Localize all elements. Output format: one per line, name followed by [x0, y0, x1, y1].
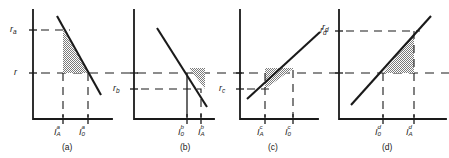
panel-b-xlabel-I0-stack: b 0	[181, 126, 186, 135]
panel-c-axes	[240, 10, 318, 119]
panel-b-shaded-triangle	[189, 68, 205, 89]
panel-d-xlabel-IA: I d A	[406, 126, 414, 137]
panel-c-xlabel-IA-sup: c	[260, 124, 263, 130]
panel-c-xlabel-I0-stack: c 0	[288, 126, 293, 135]
panel-c-xlabel-IA: I c A	[257, 126, 265, 137]
panel-d-sloped-line	[351, 16, 431, 105]
panel-c-xlabel-I0-sup: c	[288, 124, 291, 130]
panel-a	[29, 10, 112, 124]
panel-a-xlabel-IA-sub: A	[57, 131, 61, 137]
panel-b-sloped-line	[157, 28, 207, 107]
panel-d-xlabel-IA-sub: A	[409, 131, 413, 137]
panel-b-ylabel-rb: rb	[113, 84, 120, 95]
panel-a-xlabel-IA-sup: a	[57, 124, 60, 130]
panel-b-ylabel-rb-sub: b	[116, 88, 120, 95]
panel-a-ylabel-r-base: r	[14, 67, 17, 77]
panel-a-xlabel-IA-stack: a A	[57, 126, 62, 135]
panel-b-xlabel-I0-sub: 0	[181, 131, 184, 137]
panel-a-xlabel-I0-sup: a	[82, 124, 85, 130]
panel-d-ylabel-rd-sub: d	[323, 30, 327, 37]
panel-c-ylabel-rc-sub: c	[222, 88, 225, 95]
panel-c-ylabel-rc: rc	[219, 84, 225, 95]
panel-c-xlabel-I0: I c 0	[285, 126, 293, 137]
panel-c-xlabel-IA-stack: c A	[260, 126, 265, 135]
panel-b-caption: (b)	[180, 143, 190, 152]
panel-c-xlabel-IA-sub: A	[260, 131, 264, 137]
panel-c	[236, 10, 320, 124]
panel-d	[335, 10, 446, 124]
panel-d-xlabel-I0-sub: 0	[378, 131, 381, 137]
panel-d-ylabel-rd: rd	[320, 26, 327, 37]
panel-d-xlabel-I0-sup: d	[378, 124, 381, 130]
panel-d-xlabel-IA-stack: d A	[409, 126, 414, 135]
panel-a-xlabel-I0: I a 0	[79, 126, 87, 137]
panel-b-xlabel-IA-sub: A	[201, 131, 205, 137]
panel-a-xlabel-IA: I a A	[54, 126, 62, 137]
panel-a-ylabel-ra: ra	[10, 25, 17, 36]
panel-d-xlabel-I0-stack: d 0	[378, 126, 383, 135]
panel-a-ylabel-ra-sub: a	[13, 29, 17, 36]
panel-d-xlabel-I0: I d 0	[375, 126, 383, 137]
figure-container: ra r I a A I a 0 (a) rb I b 0 I b A (b) …	[0, 0, 449, 158]
panel-c-xlabel-I0-sub: 0	[288, 131, 291, 137]
panel-a-xlabel-I0-stack: a 0	[82, 126, 87, 135]
panel-b	[130, 10, 214, 124]
panel-b-xlabel-I0: I b 0	[178, 126, 186, 137]
panel-b-rb-level-dash	[141, 89, 201, 117]
panel-b-xlabel-IA-sup: b	[201, 124, 204, 130]
panel-b-xlabel-IA: I b A	[198, 126, 206, 137]
panel-a-xlabel-I0-sub: 0	[82, 131, 85, 137]
panel-b-axes	[134, 10, 214, 119]
panel-a-ylabel-r: r	[14, 68, 17, 77]
panel-d-caption: (d)	[382, 143, 392, 152]
panel-b-xlabel-I0-sup: b	[181, 124, 184, 130]
panel-a-caption: (a)	[62, 143, 72, 152]
panel-d-xlabel-IA-sup: d	[409, 124, 412, 130]
panel-b-xlabel-IA-stack: b A	[201, 126, 206, 135]
panel-c-sloped-line	[247, 32, 320, 99]
panel-c-caption: (c)	[268, 143, 278, 152]
